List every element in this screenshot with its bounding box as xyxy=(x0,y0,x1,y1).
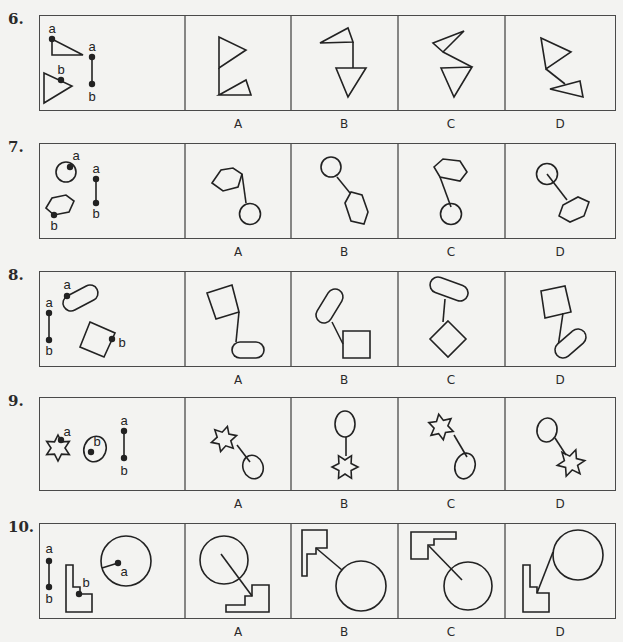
anchor-dot xyxy=(93,176,99,182)
polygon-shape xyxy=(320,28,353,43)
option-panel-b[interactable] xyxy=(332,411,358,478)
anchor-label: a xyxy=(72,148,80,163)
polygon-shape xyxy=(434,159,467,181)
anchor-label: b xyxy=(45,343,52,358)
option-panel-c[interactable] xyxy=(433,31,472,97)
option-panel-a[interactable] xyxy=(211,426,266,481)
anchor-label: a xyxy=(63,277,71,292)
anchor-label: a xyxy=(120,413,128,428)
option-panel-b[interactable] xyxy=(324,297,370,358)
polygon-shape xyxy=(46,195,74,215)
option-panel-d[interactable] xyxy=(523,530,603,612)
question-figures-9: abab xyxy=(47,397,585,490)
option-panel-c[interactable] xyxy=(411,532,492,610)
option-panel-b[interactable] xyxy=(320,28,366,97)
polygon-shape xyxy=(430,321,466,357)
stem-panel: abab xyxy=(47,413,129,478)
anchor-label: b xyxy=(92,206,99,221)
ellipse-shape xyxy=(452,451,478,481)
polygon-shape xyxy=(541,38,571,69)
polygon-shape xyxy=(52,39,83,55)
anchor-label: b xyxy=(57,62,64,77)
anchor-label: a xyxy=(92,161,100,176)
anchor-label: a xyxy=(45,541,53,556)
anchor-dot xyxy=(89,54,95,60)
anchor-dot xyxy=(76,591,82,597)
anchor-dot xyxy=(46,584,52,590)
polygon-shape xyxy=(343,331,370,358)
anchor-dot xyxy=(46,310,52,316)
anchor-dot xyxy=(46,558,52,564)
anchor-label: b xyxy=(45,591,52,606)
connector-line xyxy=(443,52,472,67)
circle-shape xyxy=(553,530,603,580)
stem-panel: abba xyxy=(45,536,151,612)
polygon-shape xyxy=(433,31,464,52)
option-panel-c[interactable] xyxy=(430,285,466,357)
circle-shape xyxy=(200,536,248,584)
option-panel-d[interactable] xyxy=(535,416,585,476)
option-panel-d[interactable] xyxy=(541,38,583,97)
connector-line xyxy=(242,174,246,203)
anchor-dot xyxy=(109,336,115,342)
stem-panel: abab xyxy=(44,21,96,104)
anchor-label: b xyxy=(50,218,57,233)
option-panel-c[interactable] xyxy=(434,159,467,225)
option-panel-d[interactable] xyxy=(537,164,590,223)
polygon-shape xyxy=(411,532,456,559)
circle-shape xyxy=(240,204,261,225)
ellipse-shape xyxy=(239,452,266,481)
anchor-label: a xyxy=(45,295,53,310)
anchor-label: a xyxy=(120,564,128,579)
figure-canvas: abababababababababba xyxy=(0,0,623,642)
circle-shape xyxy=(321,157,341,177)
star-shape xyxy=(429,414,453,440)
polygon-shape xyxy=(550,81,583,97)
anchor-dot xyxy=(121,428,127,434)
polygon-shape xyxy=(44,73,72,103)
polygon-shape xyxy=(345,192,368,224)
connector-line xyxy=(332,322,343,344)
connector-line xyxy=(429,546,462,580)
option-panel-a[interactable] xyxy=(207,285,256,350)
question-figures-6: abab xyxy=(44,15,583,110)
option-panel-c[interactable] xyxy=(429,414,478,481)
anchor-label: b xyxy=(93,434,100,449)
anchor-label: b xyxy=(118,335,125,350)
question-figures-7: abab xyxy=(46,143,589,238)
polygon-shape xyxy=(441,67,472,97)
star-shape xyxy=(211,426,236,451)
option-panel-b[interactable] xyxy=(302,530,386,611)
polygon-shape xyxy=(207,285,239,319)
anchor-label: a xyxy=(63,424,71,439)
option-panel-a[interactable] xyxy=(219,37,251,95)
anchor-label: b xyxy=(88,89,95,104)
anchor-label: b xyxy=(82,575,89,590)
stem-panel: abab xyxy=(45,277,125,358)
star-shape xyxy=(557,450,585,476)
polygon-shape xyxy=(541,286,571,318)
anchor-dot xyxy=(67,164,73,170)
connector-line xyxy=(546,69,565,84)
option-panel-d[interactable] xyxy=(541,286,578,350)
circle-shape xyxy=(56,162,76,182)
connector-line xyxy=(337,177,350,193)
anchor-label: b xyxy=(120,463,127,478)
connector-line xyxy=(316,548,342,570)
anchor-dot xyxy=(88,449,94,455)
option-panel-a[interactable] xyxy=(200,536,269,612)
option-panel-b[interactable] xyxy=(321,157,368,224)
connector-line xyxy=(555,438,566,455)
polygon-shape xyxy=(219,80,251,95)
anchor-dot xyxy=(64,293,70,299)
stem-panel: abab xyxy=(46,148,100,233)
option-panel-a[interactable] xyxy=(212,168,261,225)
star-shape xyxy=(332,456,358,479)
polygon-shape xyxy=(336,68,366,97)
question-figures-10: abba xyxy=(45,523,603,618)
anchor-dot xyxy=(58,77,64,83)
polygon-shape xyxy=(302,530,327,576)
connector-line xyxy=(440,177,451,207)
connector-line xyxy=(236,312,239,342)
connector-line xyxy=(537,552,553,593)
